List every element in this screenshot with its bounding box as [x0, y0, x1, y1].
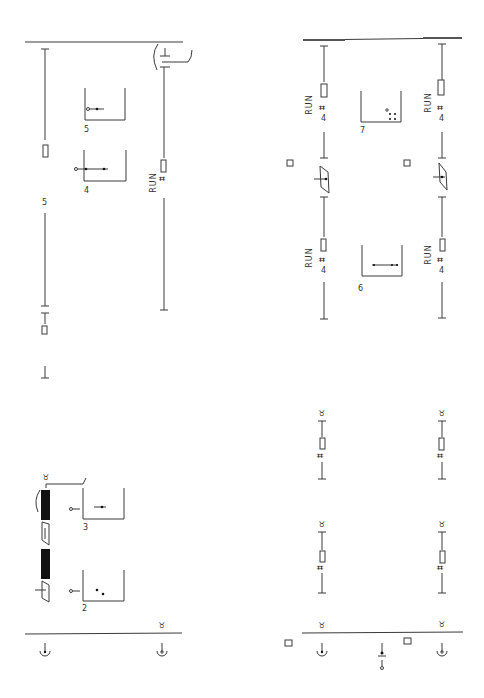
solid-block — [41, 490, 50, 520]
count-label: 4 — [321, 115, 326, 123]
container-box-6 — [362, 245, 402, 276]
dot — [391, 264, 393, 266]
hash-icon: ⌗ — [437, 105, 445, 110]
open-dot — [386, 109, 388, 111]
dot — [101, 506, 104, 509]
dot — [321, 651, 323, 653]
dot — [96, 589, 99, 592]
dot — [394, 118, 396, 120]
flag-symbol — [321, 84, 327, 97]
flag-symbol — [438, 80, 444, 95]
hash-icon: ⌗ — [437, 565, 445, 570]
hash-icon: ⌗ — [319, 105, 327, 110]
dot — [373, 264, 375, 266]
container-box-4 — [84, 150, 126, 181]
solid-block — [41, 549, 50, 579]
dot — [85, 168, 88, 171]
connector — [46, 478, 86, 488]
box-t-symbol — [285, 640, 292, 646]
taurus-icon: ♉ — [42, 474, 49, 482]
box-t-symbol — [404, 638, 411, 644]
flag-symbol — [321, 239, 326, 251]
parallelogram-valve — [42, 581, 49, 602]
count-label: 4 — [321, 267, 326, 275]
box-number: 6 — [358, 285, 363, 293]
taurus-icon: ♉ — [438, 521, 445, 529]
dot — [381, 652, 384, 655]
taurus-icon: ♉ — [318, 410, 325, 418]
flag-symbol — [43, 145, 48, 157]
run-label: RUN — [424, 244, 433, 264]
taurus-icon: ♉ — [438, 410, 445, 418]
run-label: RUN — [305, 94, 314, 114]
flag-symbol — [161, 160, 166, 172]
hash-icon: ⌗ — [159, 176, 167, 181]
run-label: RUN — [305, 247, 314, 267]
run-label: RUN — [424, 92, 433, 112]
flag-symbol — [440, 239, 445, 251]
hash-icon: ⌗ — [317, 453, 325, 458]
count-label: 5 — [42, 199, 47, 207]
taurus-icon: ♉ — [438, 621, 445, 629]
dot — [396, 264, 398, 266]
bottom-staff-line-right — [302, 632, 463, 633]
flag-symbol — [320, 438, 325, 449]
container-box-3 — [83, 488, 124, 519]
flag-symbol — [439, 438, 444, 450]
dot — [325, 178, 328, 181]
open-dot — [70, 590, 73, 593]
flag-symbol — [42, 326, 47, 334]
box-number: 2 — [82, 605, 87, 613]
flag-symbol — [440, 551, 445, 563]
container-box-7 — [361, 91, 401, 122]
hash-icon: ⌗ — [319, 257, 327, 262]
dot — [44, 651, 46, 653]
flag-symbol — [320, 551, 325, 562]
dot — [102, 593, 105, 596]
dot — [389, 113, 391, 115]
count-label: 4 — [439, 115, 444, 123]
run-label: RUN — [149, 172, 158, 192]
hash-icon: ⌗ — [437, 453, 445, 458]
container-box-2 — [83, 570, 124, 601]
diagram-canvas — [0, 0, 484, 698]
box-t-symbol — [287, 160, 293, 166]
dot — [394, 113, 396, 115]
open-dot — [70, 508, 73, 511]
open-dot — [75, 168, 78, 171]
bracket-curve — [154, 44, 158, 70]
hash-icon: ⌗ — [317, 565, 325, 570]
dot — [441, 176, 444, 179]
open-dot — [381, 667, 384, 670]
hash-icon: ⌗ — [437, 257, 445, 262]
taurus-icon: ♉ — [158, 622, 165, 630]
taurus-icon: ♉ — [318, 622, 325, 630]
dot — [96, 108, 99, 111]
bottom-staff-line-left — [25, 633, 182, 634]
bracket-curve — [36, 490, 40, 512]
dot — [103, 168, 106, 171]
box-number: 3 — [83, 524, 88, 532]
box-t-symbol — [404, 160, 410, 166]
box-number: 7 — [360, 127, 365, 135]
taurus-icon: ♉ — [318, 521, 325, 529]
count-label: 4 — [439, 267, 444, 275]
dot — [389, 118, 391, 120]
box-number: 4 — [84, 187, 89, 195]
box-number: 5 — [84, 126, 89, 134]
container-box-5 — [85, 88, 125, 120]
